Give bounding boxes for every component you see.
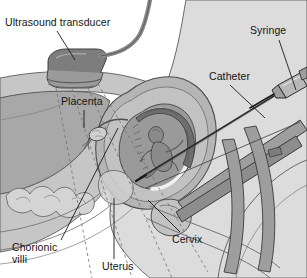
cvs-illustration-figure: Ultrasound transducer Syringe Catheter P… bbox=[0, 0, 307, 278]
illustration-artwork bbox=[0, 0, 307, 278]
ultrasound-transducer bbox=[47, 49, 107, 88]
